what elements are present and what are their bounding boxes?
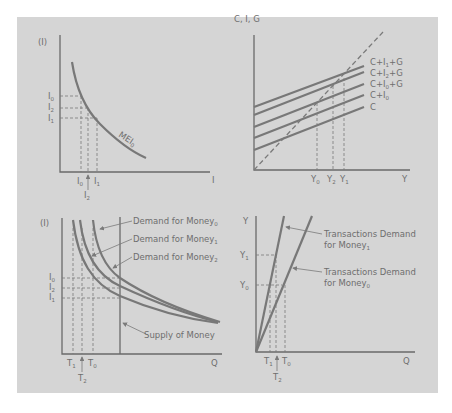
label-supply: Supply of Money: [144, 330, 215, 340]
label-c-i1-g: C+I1+G: [370, 57, 403, 68]
transactions-x-tick-t2: T2: [272, 372, 282, 383]
mei-y-tick-i1: I1: [48, 113, 54, 124]
expenditure-chart: C, I, G Y C+I1+G C+I2+G C+I0+G C+I0 C Y0…: [234, 14, 410, 185]
label-transactions-0-line1: Transactions Demand: [323, 267, 416, 277]
line-c: [254, 107, 364, 150]
money-market-chart: (I) Q Demand for Money0 Demand for Money…: [40, 216, 222, 384]
transactions-x-axis-label: Q: [403, 356, 410, 366]
economic-diagram: (I) I I0 I2 I1 I0 I1 I2 MEI0 C, I, G Y C…: [0, 0, 452, 413]
transactions-y-tick-y1: Y1: [239, 250, 249, 261]
money-y-axis-label: (I): [40, 218, 49, 228]
money-y-tick-i1: I1: [49, 292, 55, 303]
label-c: C: [370, 102, 376, 112]
transactions-y-axis-label: Y: [242, 216, 249, 226]
mei-x-tick-i2: I2: [84, 190, 90, 201]
transactions-x-tick-t1: T1: [263, 356, 273, 367]
label-c-i0-g: C+I0+G: [370, 79, 403, 90]
mei-y-tick-i2: I2: [48, 102, 54, 113]
income-guides: [256, 255, 282, 285]
transactions-y-tick-y0: Y0: [239, 280, 249, 291]
leader-demand-2: [113, 257, 132, 268]
transactions-demand-0: [256, 216, 312, 352]
expenditure-x-tick-y2: Y2: [326, 174, 336, 185]
money-x-tick-t2: T2: [77, 373, 87, 384]
line-c-i0-g: [254, 84, 364, 127]
expenditure-x-tick-y1: Y1: [339, 174, 349, 185]
leader-supply: [123, 323, 146, 334]
mei-y-axis-label: (I): [38, 37, 47, 47]
label-transactions-1-line1: Transactions Demand: [323, 229, 416, 239]
label-demand-2: Demand for Money2: [133, 252, 218, 263]
money-quantity-guides: [73, 228, 93, 354]
label-c-i0: C+I0: [370, 90, 390, 101]
mei-chart: (I) I I0 I2 I1 I0 I1 I2 MEI0: [38, 35, 215, 201]
mei-x-axis-label: I: [212, 175, 215, 185]
mei-investment-guides: [81, 96, 97, 172]
transactions-x-tick-t0: T0: [281, 356, 291, 367]
expenditure-y-axis-label: C, I, G: [234, 14, 260, 24]
transactions-demand-chart: Y Q Transactions Demand for Money1 Trans…: [239, 216, 416, 383]
money-x-axis-label: Q: [211, 358, 218, 368]
label-demand-1: Demand for Money1: [133, 234, 218, 245]
mei-y-tick-i0: I0: [48, 91, 55, 102]
leader-transactions-0: [293, 268, 322, 272]
label-demand-0: Demand for Money0: [133, 216, 218, 227]
label-transactions-1-line2: for Money1: [324, 240, 370, 251]
leader-demand-0: [100, 221, 132, 229]
mei-x-tick-i0: I0: [77, 176, 84, 187]
line-c-i2-g: [254, 72, 364, 115]
money-x-tick-t1: T1: [66, 358, 76, 369]
expenditure-x-tick-y0: Y0: [310, 174, 320, 185]
label-transactions-0-line2: for Money0: [324, 278, 371, 289]
expenditure-axes: [254, 35, 410, 170]
mei-x-tick-i1: I1: [94, 176, 100, 187]
expenditure-x-axis-label: Y: [401, 174, 408, 184]
label-c-i2-g: C+I2+G: [370, 68, 403, 79]
money-x-tick-t0: T0: [87, 358, 97, 369]
